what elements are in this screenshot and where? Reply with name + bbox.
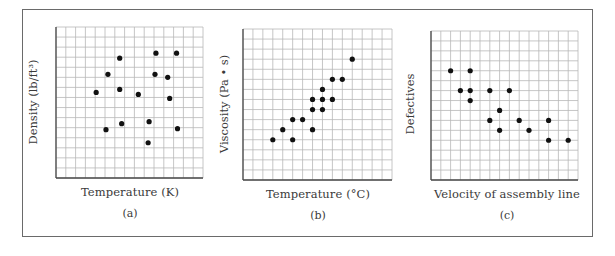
- data-point: [468, 98, 473, 103]
- data-point: [487, 88, 492, 93]
- data-point: [517, 118, 522, 123]
- data-point: [458, 88, 463, 93]
- data-point: [566, 138, 571, 143]
- data-point: [487, 118, 492, 123]
- data-point: [468, 88, 473, 93]
- plot-area-c: [0, 0, 615, 256]
- data-point: [546, 118, 551, 123]
- data-point: [507, 88, 512, 93]
- panel-label-c: (c): [500, 209, 515, 222]
- data-point: [546, 138, 551, 143]
- y-axis-label-c: Defectives: [403, 73, 417, 134]
- data-point: [497, 108, 502, 113]
- data-point: [468, 68, 473, 73]
- data-point: [497, 128, 502, 133]
- data-point: [448, 68, 453, 73]
- data-point: [526, 128, 531, 133]
- x-axis-label-c: Velocity of assembly line: [434, 187, 580, 201]
